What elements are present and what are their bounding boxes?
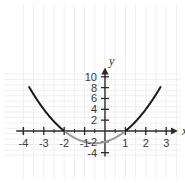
x-tick-label: 2: [143, 137, 149, 149]
x-tick-label: -4: [19, 137, 29, 149]
coordinate-plane-plot: -4-3-2-1123 108642-2-4 x y: [0, 0, 185, 183]
x-axis-label: x: [181, 124, 185, 138]
x-tick-label: 1: [122, 137, 128, 149]
y-tick-label: -4: [87, 147, 97, 159]
graph-figure: -4-3-2-1123 108642-2-4 x y: [0, 0, 185, 183]
y-tick-label: 2: [91, 114, 97, 126]
x-tick-label: -3: [39, 137, 49, 149]
y-axis-label: y: [108, 54, 115, 68]
x-tick-label: -2: [59, 137, 69, 149]
x-tick-label: 3: [163, 137, 169, 149]
